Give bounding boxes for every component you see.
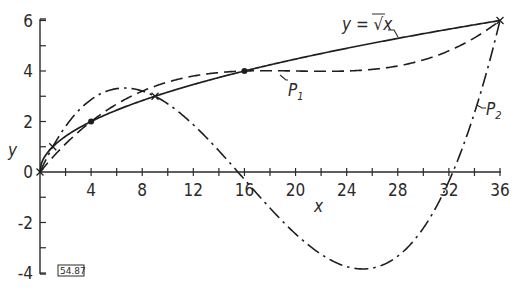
- curve-p1: [40, 21, 500, 173]
- x-tick-label: 8: [137, 180, 147, 200]
- y-tick-labels: -4-20246: [18, 11, 33, 284]
- chart-container: 4812162024283236 -4-20246 x y y = √x P1: [0, 0, 516, 290]
- label-p2: P2: [477, 99, 502, 122]
- ref-code: 54.87: [60, 266, 86, 276]
- x-tick-label: 36: [490, 180, 509, 200]
- node-dot: [88, 119, 94, 125]
- node-dot: [241, 68, 247, 74]
- chart-svg: 4812162024283236 -4-20246 x y y = √x P1: [0, 0, 516, 290]
- curves: [40, 21, 500, 269]
- figure-reference: 54.87: [58, 265, 86, 276]
- p1-leader: [280, 75, 288, 80]
- x-tick-label: 4: [86, 180, 96, 200]
- interpolation-markers: [37, 17, 504, 176]
- label-p1: P1: [280, 75, 304, 103]
- curve-sqrt-label: y = √x: [341, 14, 393, 34]
- p2-leader: [477, 105, 486, 108]
- x-tick-label: 28: [388, 180, 407, 200]
- curve-p1-label: P1: [288, 80, 304, 103]
- x-tick-label: 24: [337, 180, 356, 200]
- x-tick-label: 16: [235, 180, 254, 200]
- y-tick-label: 2: [23, 112, 33, 132]
- y-tick-label: 6: [23, 11, 33, 31]
- y-tick-label: -2: [18, 213, 33, 233]
- y-ticks: [40, 21, 46, 274]
- p2-subscript: 2: [495, 109, 501, 122]
- label-sqrt: y = √x: [341, 14, 398, 37]
- p1-subscript: 1: [297, 90, 303, 103]
- curve-sqrt-x: [40, 21, 500, 173]
- y-axis-label: y: [7, 140, 18, 160]
- y-tick-label: 0: [23, 162, 33, 182]
- x-tick-label: 20: [286, 180, 305, 200]
- x-tick-label: 12: [184, 180, 203, 200]
- curve-p2-label: P2: [486, 99, 502, 122]
- x-axis-label: x: [313, 196, 324, 216]
- y-tick-label: -4: [18, 263, 33, 283]
- node-cross: [49, 143, 56, 150]
- x-tick-labels: 4812162024283236: [86, 180, 509, 200]
- y-tick-label: 4: [23, 61, 33, 81]
- axes: 4812162024283236 -4-20246: [18, 11, 510, 284]
